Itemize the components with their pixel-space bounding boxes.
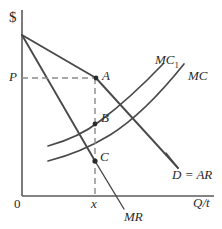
marginal-revenue-leader-line — [95, 161, 124, 209]
demand-label-leader-line — [166, 153, 178, 168]
point-b-label: B — [101, 111, 109, 124]
mc-curve-label: MC — [188, 69, 208, 82]
point-b-marker — [93, 122, 98, 127]
diagram-canvas — [0, 0, 222, 229]
mc1-curve-label-subscript: 1 — [175, 60, 179, 70]
mc1-curve-label: MC1 — [155, 53, 179, 69]
point-a-label: A — [102, 69, 110, 82]
demand-curve-label: D = AR — [172, 168, 212, 181]
point-a-marker — [94, 76, 99, 81]
y-axis-label: $ — [9, 10, 17, 25]
mc-curve — [48, 64, 184, 161]
point-c-label: C — [100, 150, 109, 163]
quantity-axis-tick-label: x — [91, 197, 97, 210]
economics-diagram: $ P 0 x Q/t A B C MC1 MC D = AR MR — [0, 0, 222, 229]
origin-label: 0 — [14, 197, 21, 210]
x-axis-label: Q/t — [193, 196, 210, 209]
marginal-revenue-curve-label: MR — [124, 210, 143, 223]
mc1-curve-label-text: MC — [155, 52, 175, 67]
price-axis-tick-label: P — [9, 70, 17, 83]
point-c-marker — [92, 158, 97, 163]
